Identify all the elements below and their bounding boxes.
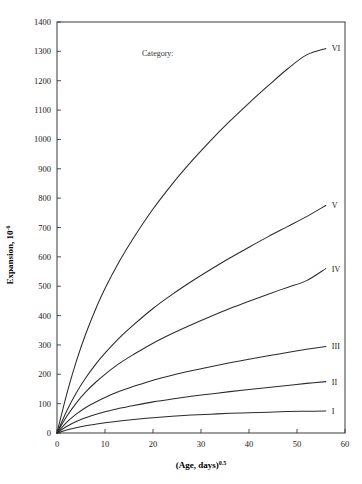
x-tick-label: 40 xyxy=(245,439,254,449)
x-axis-title: (Age, days)0.5 xyxy=(176,460,227,470)
series-label-vi: VI xyxy=(332,44,341,53)
series-label-v: V xyxy=(332,201,338,210)
y-tick-label: 700 xyxy=(38,223,51,233)
y-tick-label: 1000 xyxy=(34,134,51,144)
y-tick-label: 400 xyxy=(38,311,51,321)
data-series-curves xyxy=(57,48,326,433)
series-label-ii: II xyxy=(332,378,338,387)
y-tick-label: 1400 xyxy=(34,17,51,27)
y-tick-label: 1200 xyxy=(34,76,51,86)
y-tick-label: 800 xyxy=(38,193,51,203)
x-tick-label: 30 xyxy=(197,439,206,449)
y-tick-label: 200 xyxy=(38,369,51,379)
y-axis-title: Expansion, 10-6 xyxy=(5,225,15,284)
chart-annotations: Category: xyxy=(142,49,174,58)
series-label-iii: III xyxy=(332,342,340,351)
x-tick-label: 10 xyxy=(101,439,110,449)
x-axis-ticks: 0102030405060 xyxy=(55,429,349,449)
series-line-iii xyxy=(57,346,326,433)
y-tick-label: 300 xyxy=(38,340,51,350)
chart-container: 0100200300400500600700800900100011001200… xyxy=(0,0,362,484)
y-tick-label: 600 xyxy=(38,252,51,262)
series-line-vi xyxy=(57,48,326,433)
y-tick-label: 1100 xyxy=(34,105,51,115)
series-label-i: I xyxy=(332,407,335,416)
series-label-iv: IV xyxy=(332,265,341,274)
series-line-v xyxy=(57,205,326,433)
series-line-ii xyxy=(57,382,326,433)
series-labels: IIIIIIIVVVI xyxy=(332,44,341,416)
plot-frame xyxy=(57,22,345,433)
expansion-vs-age-line-chart: 0100200300400500600700800900100011001200… xyxy=(0,0,362,484)
y-tick-label: 900 xyxy=(38,164,51,174)
x-tick-label: 20 xyxy=(149,439,158,449)
y-tick-label: 0 xyxy=(47,428,51,438)
x-tick-label: 0 xyxy=(55,439,59,449)
category-annotation: Category: xyxy=(142,49,174,58)
x-tick-label: 50 xyxy=(293,439,302,449)
x-tick-label: 60 xyxy=(341,439,350,449)
y-tick-label: 500 xyxy=(38,281,51,291)
y-tick-label: 1300 xyxy=(34,46,51,56)
y-tick-label: 100 xyxy=(38,399,51,409)
series-line-iv xyxy=(57,269,326,433)
